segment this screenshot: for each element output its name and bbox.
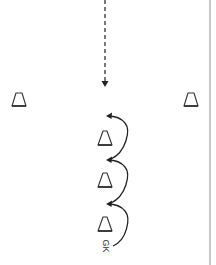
cone-icon xyxy=(184,93,198,106)
cone-icon xyxy=(98,217,112,231)
drill-diagram: GK xyxy=(0,0,216,265)
arrowhead-down-icon xyxy=(102,81,109,87)
arrowhead-left-icon xyxy=(106,113,112,120)
drill-canvas xyxy=(0,0,216,265)
cone-icon xyxy=(98,173,112,187)
arrowhead-left-icon xyxy=(106,157,112,164)
cone-icon xyxy=(98,131,112,145)
ball-path-arrow xyxy=(102,0,109,87)
cone-icon xyxy=(12,93,26,106)
arrowhead-left-icon xyxy=(106,201,112,208)
goalkeeper-label: GK xyxy=(99,239,113,253)
field-boundary-line xyxy=(209,0,211,265)
